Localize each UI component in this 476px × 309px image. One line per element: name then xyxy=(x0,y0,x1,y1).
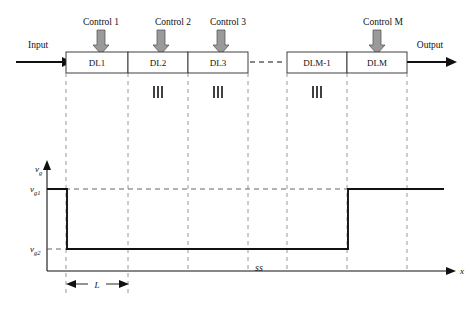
output-label: Output xyxy=(417,40,444,50)
ellipsis-mark-dl2 xyxy=(154,86,162,98)
y-axis-label-subscript: g xyxy=(39,169,43,176)
output-arrow xyxy=(407,57,457,67)
delay-line-box-dl3[interactable]: DL3 xyxy=(188,52,248,73)
delay-line-label-dl3: DL3 xyxy=(210,58,227,68)
control-arrow-2[interactable] xyxy=(153,30,169,54)
input-arrow xyxy=(16,57,72,67)
control-label-1: Control 1 xyxy=(83,17,119,27)
control-label-2: Control 2 xyxy=(155,17,191,27)
dimension-l: L xyxy=(66,277,129,291)
vertical-guides xyxy=(66,73,407,296)
control-arrow-m[interactable] xyxy=(369,30,385,54)
delay-line-diagram: Control 1 Control 2 Control 3 Control M … xyxy=(0,0,476,309)
delay-line-box-dlm[interactable]: DLM xyxy=(347,52,407,73)
input-label: Input xyxy=(28,40,48,50)
level-low-label-subscript: g2 xyxy=(34,249,41,256)
control-label-m: Control M xyxy=(363,17,403,27)
control-label-3: Control 3 xyxy=(210,17,246,27)
delay-line-label-dl1: DL1 xyxy=(89,58,106,68)
delay-line-label-dl2: DL2 xyxy=(150,58,167,68)
ellipsis-mark-dlm-1 xyxy=(313,86,321,98)
delay-line-box-dl2[interactable]: DL2 xyxy=(128,52,188,73)
ellipsis-mark-dl3 xyxy=(214,86,222,98)
figure-root: Control 1 Control 2 Control 3 Control M … xyxy=(0,0,476,309)
delay-line-label-dlm: DLM xyxy=(367,58,387,68)
level-high-label-subscript: g1 xyxy=(34,189,41,196)
axis-break-symbol: ss xyxy=(255,262,263,273)
signal-waveform xyxy=(47,189,444,249)
svg-text:ss: ss xyxy=(255,262,263,273)
delay-line-box-dl1[interactable]: DL1 xyxy=(66,52,128,73)
dimension-label-l: L xyxy=(93,280,99,290)
delay-line-label-dlm-1: DLM-1 xyxy=(303,58,331,68)
control-arrow-1[interactable] xyxy=(93,30,109,54)
y-axis xyxy=(43,160,51,271)
x-axis-label: x xyxy=(459,266,464,276)
x-axis xyxy=(47,267,456,275)
delay-line-box-dlm-1[interactable]: DLM-1 xyxy=(287,52,347,73)
control-arrow-3[interactable] xyxy=(213,30,229,54)
